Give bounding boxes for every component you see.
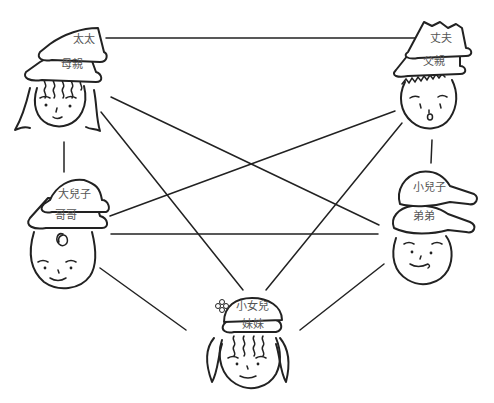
edge-father-younger-son <box>431 140 432 163</box>
younger-son-label: 小兒子 <box>413 182 446 193</box>
edge-father-elder-son <box>110 111 395 216</box>
edge-elder-daughter <box>100 268 186 330</box>
younger-brother-label: 弟弟 <box>413 211 435 222</box>
father-father-label: 父親 <box>423 56 445 67</box>
edge-younger-daughter <box>300 264 384 330</box>
father-husband-label: 丈夫 <box>430 33 452 44</box>
mother-mother-label: 母親 <box>61 59 83 70</box>
elder-brother-label: 哥哥 <box>55 210 77 221</box>
daughter-label: 小女兒 <box>236 301 269 312</box>
edge-mother-daughter <box>101 112 243 290</box>
mother-wife-label: 太太 <box>73 34 95 45</box>
elder-son-label: 大兒子 <box>58 189 91 200</box>
younger-sister-label: 妹妹 <box>242 319 264 330</box>
edge-mother-younger-son <box>111 97 379 225</box>
edges <box>64 38 432 330</box>
